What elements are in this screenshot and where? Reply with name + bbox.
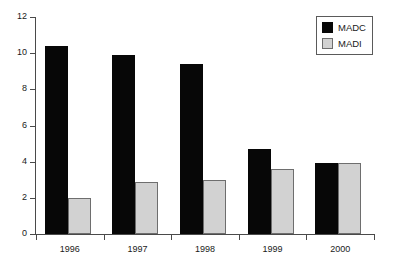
x-tick-label: 1996: [36, 244, 104, 254]
x-axis-line: [35, 234, 375, 235]
legend-label: MADC: [338, 22, 366, 33]
y-tick-label: 4: [4, 157, 27, 166]
x-tick-mark: [104, 235, 105, 240]
y-tick-label: 12: [4, 12, 27, 21]
y-tick-mark: [30, 234, 35, 235]
x-tick-label: 1997: [104, 244, 172, 254]
bar-madi-1996: [68, 198, 91, 234]
bar-madc-2000: [315, 163, 338, 234]
legend-item-madc: MADC: [322, 21, 366, 34]
x-tick-mark: [239, 235, 240, 240]
y-tick-label: 6: [4, 121, 27, 130]
y-tick-label: 8: [4, 84, 27, 93]
bar-madi-1998: [203, 180, 226, 234]
x-tick-mark: [306, 235, 307, 240]
x-tick-mark: [36, 235, 37, 240]
x-tick-mark: [171, 235, 172, 240]
x-tick-label: 1998: [171, 244, 239, 254]
y-tick-mark: [30, 126, 35, 127]
x-tick-label: 2000: [306, 244, 374, 254]
bar-madi-1999: [271, 169, 294, 234]
x-tick-label: 1999: [239, 244, 307, 254]
y-tick-label: 0: [4, 229, 27, 238]
bar-madi-1997: [135, 182, 158, 234]
y-tick-mark: [30, 53, 35, 54]
bar-madc-1996: [45, 46, 68, 234]
bar-madc-1998: [180, 64, 203, 234]
legend-item-madi: MADI: [322, 37, 366, 50]
y-tick-label: 2: [4, 193, 27, 202]
chart-legend: MADC MADI: [316, 16, 373, 55]
legend-label: MADI: [338, 38, 362, 49]
y-tick-mark: [30, 17, 35, 18]
gray-square-swatch-icon: [322, 38, 333, 49]
y-tick-mark: [30, 162, 35, 163]
y-tick-mark: [30, 198, 35, 199]
black-square-swatch-icon: [322, 22, 333, 33]
y-tick-label: 10: [4, 48, 27, 57]
bar-chart: 024681012 19961997199819992000 MADC MADI: [0, 0, 394, 266]
x-tick-mark: [374, 235, 375, 240]
bar-madc-1997: [112, 55, 135, 234]
y-tick-mark: [30, 89, 35, 90]
bar-madi-2000: [338, 163, 361, 234]
bar-madc-1999: [248, 149, 271, 234]
